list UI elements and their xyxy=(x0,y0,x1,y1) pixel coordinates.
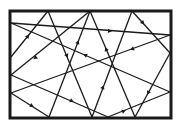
trajectory-segment xyxy=(11,75,108,117)
trajectory-segment xyxy=(92,11,132,117)
trajectory-segment xyxy=(108,92,170,117)
billiard-diagram xyxy=(0,0,181,129)
trajectory-segment xyxy=(11,93,49,117)
direction-arrows xyxy=(25,20,151,114)
arrow-icon xyxy=(108,29,112,33)
trajectory-segment xyxy=(135,53,170,117)
trajectory-segment xyxy=(11,35,170,93)
trajectory-segments xyxy=(11,11,170,117)
